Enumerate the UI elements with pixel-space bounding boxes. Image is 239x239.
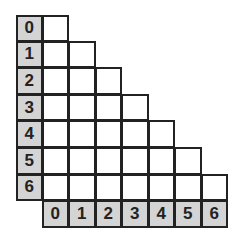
row-header: 0 <box>16 15 43 42</box>
grid-cell <box>68 120 96 148</box>
grid-cell <box>148 147 176 175</box>
row-header: 3 <box>16 94 43 122</box>
column-header: 4 <box>148 200 176 228</box>
column-header: 6 <box>201 200 229 228</box>
row-header: 1 <box>16 41 43 69</box>
grid-cell <box>95 147 123 175</box>
grid-cell <box>174 174 202 202</box>
column-header: 0 <box>42 200 70 228</box>
grid-cell <box>68 147 96 175</box>
column-header: 3 <box>121 200 149 228</box>
triangular-grid: 01234560123456 <box>16 15 228 228</box>
grid-cell <box>42 174 70 202</box>
grid-cell <box>121 120 149 148</box>
grid-cell <box>121 174 149 202</box>
grid-cell <box>174 147 202 175</box>
grid-cell <box>68 94 96 122</box>
grid-cell <box>95 120 123 148</box>
grid-cell <box>201 174 229 202</box>
grid-cell <box>42 41 70 69</box>
column-header: 2 <box>95 200 123 228</box>
grid-cell <box>121 147 149 175</box>
grid-cell <box>148 120 176 148</box>
row-header: 2 <box>16 67 43 95</box>
grid-cell <box>42 147 70 175</box>
grid-cell <box>68 41 96 69</box>
grid-cell <box>95 67 123 95</box>
column-header: 5 <box>174 200 202 228</box>
grid-cell <box>95 94 123 122</box>
row-header: 5 <box>16 147 43 175</box>
grid-cell <box>68 174 96 202</box>
grid-cell <box>42 67 70 95</box>
grid-cell <box>42 94 70 122</box>
grid-cell <box>42 120 70 148</box>
row-header: 4 <box>16 120 43 148</box>
grid-cell <box>121 94 149 122</box>
column-header: 1 <box>68 200 96 228</box>
grid-cell <box>68 67 96 95</box>
grid-cell <box>95 174 123 202</box>
grid-cell <box>148 174 176 202</box>
row-header: 6 <box>16 174 43 202</box>
grid-cell <box>42 15 70 42</box>
